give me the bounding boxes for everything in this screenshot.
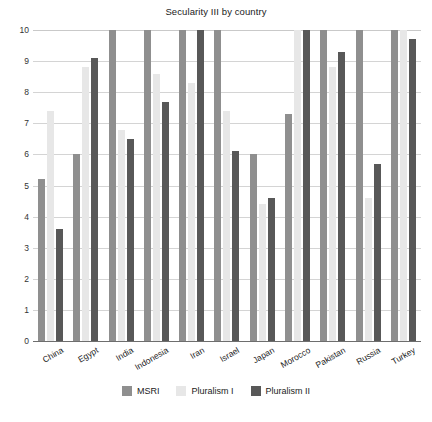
bar [409,39,416,341]
x-tick-label: Japan [251,345,276,365]
legend-item[interactable]: MSRI [122,386,160,396]
bar-group [350,30,385,341]
x-tick-label: China [40,345,64,365]
figure-caption [4,411,204,420]
bar [47,111,54,341]
x-tick-label: Russia [355,345,383,367]
bar-group [386,30,421,341]
bar-group [209,30,244,341]
bar-group [245,30,280,341]
bar [144,30,151,341]
bar [400,30,407,341]
bar [320,30,327,341]
y-tick-label-1: 1 [24,305,29,315]
x-tick-label: Egypt [76,345,100,365]
y-tick-label-4: 4 [24,212,29,222]
bar-group [104,30,139,341]
bar [179,30,186,341]
bar [365,198,372,341]
bar [259,204,266,341]
bar [285,114,292,341]
bar [303,30,310,341]
bar-group [68,30,103,341]
bar-group [174,30,209,341]
legend-swatch-icon [176,386,186,396]
x-axis-labels: ChinaEgyptIndiaIndonesiaIranIsraelJapanM… [33,341,421,386]
bar [56,229,63,341]
bar-group [280,30,315,341]
y-tick-label-2: 2 [24,274,29,284]
bar [356,30,363,341]
x-tick-label: India [114,345,135,363]
x-tick-label: Pakistan [314,345,347,370]
y-tick-label-7: 7 [24,118,29,128]
legend-item[interactable]: Pluralism II [251,386,311,396]
bar [73,154,80,341]
bar [118,130,125,341]
x-tick-label: Israel [218,345,241,364]
bar [294,30,301,341]
y-tick-label-8: 8 [24,87,29,97]
bar-group [139,30,174,341]
y-tick-label-6: 6 [24,149,29,159]
bar [374,164,381,341]
bar [82,67,89,341]
bar [268,198,275,341]
bar [153,74,160,341]
bar [91,58,98,341]
x-tick-label: Turkey [390,345,417,366]
bar [188,83,195,341]
bar [162,102,169,341]
y-tick-label-3: 3 [24,243,29,253]
secularity-bar-chart: Secularity III by country 012345678910 C… [0,0,432,422]
bar [338,52,345,341]
bar [214,30,221,341]
y-tick-label-0: 0 [24,336,29,346]
bar [250,154,257,341]
chart-title: Secularity III by country [0,6,432,17]
legend-label: MSRI [137,386,160,396]
legend-item[interactable]: Pluralism I [176,386,233,396]
x-tick-label: Morocco [278,345,311,370]
plot-area: 012345678910 [33,30,421,341]
y-tick-label-5: 5 [24,181,29,191]
legend-label: Pluralism II [266,386,311,396]
bar [223,111,230,341]
legend-swatch-icon [122,386,132,396]
bar [197,30,204,341]
bar [127,139,134,341]
legend-label: Pluralism I [191,386,233,396]
bar [232,151,239,341]
x-tick-label: Indonesia [134,345,171,372]
y-tick-label-10: 10 [20,25,29,35]
bar-group [33,30,68,341]
bar [329,67,336,341]
chart-legend: MSRIPluralism IPluralism II [0,386,432,396]
bar [391,30,398,341]
x-tick-label: Iran [188,345,206,361]
bars-layer [33,30,421,341]
bar [38,179,45,341]
bar [109,30,116,341]
y-tick-label-9: 9 [24,56,29,66]
legend-swatch-icon [251,386,261,396]
bar-group [315,30,350,341]
